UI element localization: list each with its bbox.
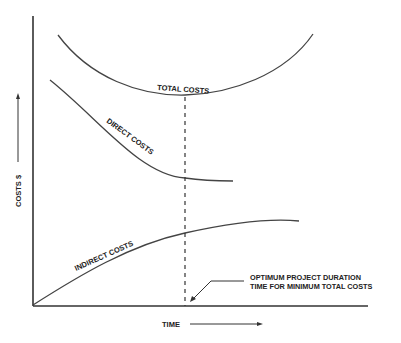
x-axis-label: TIME — [162, 320, 180, 329]
y-axis-label: COSTS $ — [14, 174, 23, 207]
annotation-leader-line — [192, 281, 244, 300]
x-arrow-head — [257, 322, 263, 326]
cost-time-diagram: COSTS $ TIME TOTAL COSTS DIRECT COSTS IN… — [0, 0, 401, 343]
y-arrow-head — [16, 93, 20, 99]
annotation-line-2: TIME FOR MINIMUM TOTAL COSTS — [250, 282, 373, 291]
indirect-costs-label: INDIRECT COSTS — [73, 239, 135, 273]
annotation-line-1: OPTIMUM PROJECT DURATION — [250, 273, 361, 282]
indirect-costs-curve — [33, 220, 299, 305]
